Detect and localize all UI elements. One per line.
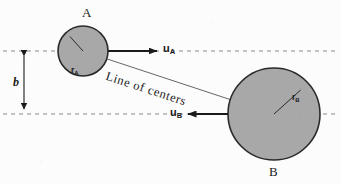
collision-diagram: A B rA rB uA uB b Line of centers [0, 0, 341, 184]
sphere-b-label: B [269, 165, 278, 178]
velocity-a-symbol: u [163, 42, 170, 54]
sphere-b-radius-label: rB [292, 93, 300, 102]
velocity-a-subscript: A [170, 47, 175, 56]
velocity-b-symbol: u [170, 106, 177, 118]
velocity-b-label: uB [170, 107, 182, 118]
radius-a-subscript: A [74, 70, 78, 76]
radius-b-subscript: B [295, 97, 299, 103]
sphere-a-radius-label: rA [71, 66, 79, 75]
velocity-a-label: uA [163, 43, 175, 54]
sphere-a-label: A [82, 6, 91, 19]
velocity-b-subscript: B [177, 111, 182, 120]
impact-parameter-label: b [13, 76, 19, 88]
